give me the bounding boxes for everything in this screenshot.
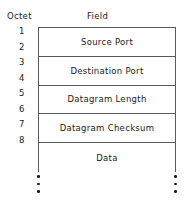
field-row-datagram-length: Datagram Length — [39, 86, 175, 115]
octet-number: 3 — [19, 58, 25, 67]
field-row-datagram-checksum: Datagram Checksum — [39, 114, 175, 143]
field-column-header: Field — [87, 11, 108, 21]
field-row-data: Data — [39, 143, 175, 172]
octet-number: 5 — [19, 89, 25, 98]
octet-column-header: Octet — [7, 11, 32, 21]
field-row-destination-port: Destination Port — [39, 57, 175, 86]
field-box: Source Port Destination Port Datagram Le… — [38, 27, 176, 172]
ellipsis-dot — [174, 183, 177, 186]
octet-number: 8 — [19, 136, 25, 145]
ellipsis-dot — [37, 190, 40, 193]
octet-number: 7 — [19, 120, 25, 129]
octet-number: 6 — [19, 105, 25, 114]
continuation-ellipsis-right-icon — [173, 175, 178, 193]
ellipsis-dot — [37, 183, 40, 186]
octet-number: 4 — [19, 74, 25, 83]
ellipsis-dot — [37, 175, 40, 178]
octet-number-column: 1 2 3 4 5 6 7 8 — [19, 27, 33, 145]
octet-number: 2 — [19, 43, 25, 52]
octet-number: 1 — [19, 27, 25, 36]
field-row-source-port: Source Port — [39, 28, 175, 57]
ellipsis-dot — [174, 175, 177, 178]
ellipsis-dot — [174, 190, 177, 193]
udp-datagram-structure-diagram: Octet Field 1 2 3 4 5 6 7 8 Source Port … — [0, 0, 189, 202]
continuation-ellipsis-left-icon — [36, 175, 41, 193]
